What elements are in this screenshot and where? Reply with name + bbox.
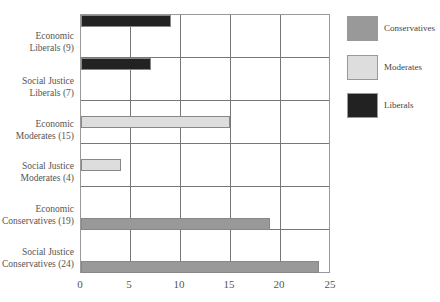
label-line: Moderates (15) <box>0 130 74 142</box>
gridline <box>81 186 329 187</box>
bar-chart: Economic Liberals (9) Social Justice Lib… <box>0 0 440 302</box>
legend-label: Conservatives <box>384 23 435 33</box>
label-line: Economic <box>0 30 74 42</box>
x-tick: 5 <box>126 278 132 290</box>
gridline <box>81 100 329 101</box>
bar-social-justice-moderates <box>81 159 121 171</box>
label-line: Conservatives (24) <box>0 258 74 270</box>
bar-social-justice-conservatives <box>81 261 319 273</box>
legend-swatch <box>347 16 378 41</box>
label-line: Liberals (9) <box>0 42 74 54</box>
bar-social-justice-liberals <box>81 58 151 70</box>
category-label: Economic Conservatives (19) <box>0 203 74 227</box>
category-label: Economic Liberals (9) <box>0 30 74 54</box>
category-label: Social Justice Moderates (4) <box>0 160 74 184</box>
category-label: Social Justice Liberals (7) <box>0 75 74 99</box>
label-line: Social Justice <box>0 160 74 172</box>
legend-item-conservatives: Conservatives <box>347 16 439 42</box>
label-line: Social Justice <box>0 75 74 87</box>
category-label: Economic Moderates (15) <box>0 118 74 142</box>
bar-economic-conservatives <box>81 218 270 230</box>
legend-swatch <box>347 55 378 80</box>
plot-area <box>80 14 330 273</box>
legend-swatch <box>347 93 378 118</box>
label-line: Economic <box>0 118 74 130</box>
x-tick: 20 <box>274 278 285 290</box>
bar-economic-moderates <box>81 116 230 128</box>
x-tick: 25 <box>325 278 336 290</box>
label-line: Moderates (4) <box>0 172 74 184</box>
legend-label: Moderates <box>384 62 422 72</box>
x-tick: 15 <box>224 278 235 290</box>
label-line: Social Justice <box>0 246 74 258</box>
legend-item-liberals: Liberals <box>347 93 439 119</box>
gridline <box>81 143 329 144</box>
bar-economic-liberals <box>81 15 171 27</box>
label-line: Economic <box>0 203 74 215</box>
label-line: Liberals (7) <box>0 87 74 99</box>
legend-item-moderates: Moderates <box>347 55 439 81</box>
category-label: Social Justice Conservatives (24) <box>0 246 74 270</box>
label-line: Conservatives (19) <box>0 215 74 227</box>
x-tick: 0 <box>77 278 83 290</box>
legend-label: Liberals <box>384 100 414 110</box>
x-tick: 10 <box>174 278 185 290</box>
